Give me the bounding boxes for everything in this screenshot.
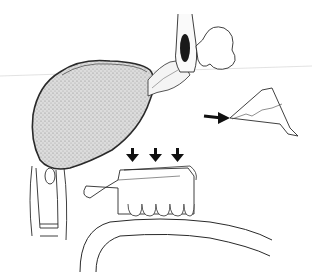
pointer-arrow bbox=[204, 112, 230, 124]
bone-fragment bbox=[230, 88, 298, 136]
curled-soft-tissue bbox=[196, 27, 235, 69]
dark-cavity bbox=[180, 34, 190, 62]
stippled-organ bbox=[32, 60, 154, 169]
down-arrows bbox=[126, 148, 184, 162]
vertebrae bbox=[30, 166, 67, 240]
anatomical-illustration bbox=[0, 0, 312, 272]
lower-contour bbox=[80, 219, 272, 272]
